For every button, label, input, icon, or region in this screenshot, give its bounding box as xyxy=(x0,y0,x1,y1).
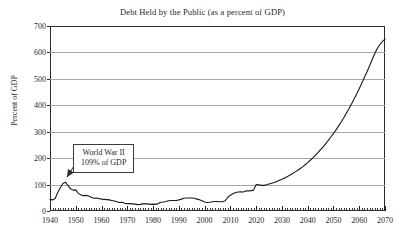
world-war-ii-annotation: World War II 109% of GDP xyxy=(73,144,134,173)
y-tick-label: 400 xyxy=(34,101,46,110)
y-tick-label: 100 xyxy=(34,180,46,189)
x-tick-label: 2020 xyxy=(248,216,264,225)
x-tick-label: 1940 xyxy=(42,216,58,225)
x-tick-label: 1990 xyxy=(171,216,187,225)
y-tick-label: 0 xyxy=(42,207,46,216)
x-tick-major xyxy=(385,206,386,212)
y-tick-label: 200 xyxy=(34,154,46,163)
annotation-arrow-icon xyxy=(50,26,385,211)
chart-title: Debt Held by the Public (as a percent of… xyxy=(0,7,405,17)
annotation-line-2: 109% of GDP xyxy=(81,158,126,168)
x-tick-label: 2040 xyxy=(300,216,316,225)
x-tick-label: 1960 xyxy=(94,216,110,225)
y-axis-title: Percent of GDP xyxy=(10,56,19,146)
annotation-line-1: World War II xyxy=(81,148,126,158)
x-tick-label: 2060 xyxy=(351,216,367,225)
y-tick-label: 600 xyxy=(34,48,46,57)
x-tick-label: 1980 xyxy=(145,216,161,225)
x-tick-label: 1950 xyxy=(68,216,84,225)
y-tick-label: 500 xyxy=(34,74,46,83)
plot-area: 0100200300400500600700 19401950196019701… xyxy=(50,26,385,211)
x-tick-label: 1970 xyxy=(119,216,135,225)
y-tick-mark xyxy=(47,211,50,212)
x-tick-label: 2030 xyxy=(274,216,290,225)
y-tick-label: 700 xyxy=(34,22,46,31)
chart-page: Debt Held by the Public (as a percent of… xyxy=(0,0,405,243)
y-tick-label: 300 xyxy=(34,127,46,136)
x-tick-label: 2050 xyxy=(325,216,341,225)
x-tick-label: 2000 xyxy=(197,216,213,225)
x-tick-label: 2070 xyxy=(377,216,393,225)
x-tick-label: 2010 xyxy=(222,216,238,225)
